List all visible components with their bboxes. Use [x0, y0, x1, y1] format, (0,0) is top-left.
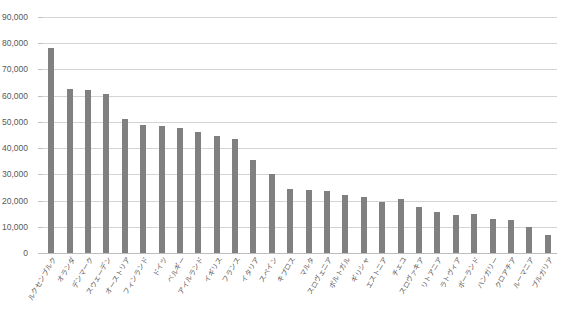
bar[interactable]	[159, 126, 165, 253]
bar[interactable]	[398, 199, 404, 253]
bar[interactable]	[195, 132, 201, 253]
bar-slot	[208, 17, 226, 253]
bar-slot	[373, 17, 391, 253]
bar[interactable]	[361, 197, 367, 253]
bar[interactable]	[122, 119, 128, 253]
bar-slot	[226, 17, 244, 253]
bar-slot	[244, 17, 262, 253]
bar-slot	[336, 17, 354, 253]
bar[interactable]	[471, 214, 477, 253]
bar-slot	[520, 17, 538, 253]
y-axis-tick-label: 20,000	[0, 197, 28, 206]
bar-slot	[97, 17, 115, 253]
bar[interactable]	[434, 212, 440, 253]
bar-slot	[410, 17, 428, 253]
bar-slot	[134, 17, 152, 253]
bar-slot	[116, 17, 134, 253]
bar[interactable]	[250, 160, 256, 253]
y-axis-tick-label: 0	[0, 249, 28, 258]
y-axis-tick-label: 70,000	[0, 65, 28, 74]
y-axis-tick-label: 90,000	[0, 13, 28, 22]
bar[interactable]	[490, 219, 496, 253]
bar[interactable]	[306, 190, 312, 253]
y-axis-tick-label: 80,000	[0, 39, 28, 48]
bar-slot	[355, 17, 373, 253]
x-axis-tick-label: フランス	[221, 256, 241, 284]
bar[interactable]	[232, 139, 238, 253]
x-axis-tick-label: キプロス	[276, 256, 296, 284]
bar-slot	[483, 17, 501, 253]
bar-slot	[189, 17, 207, 253]
x-axis-tick-label: ルクセンブルク	[27, 256, 58, 302]
bar[interactable]	[67, 89, 73, 253]
x-axis-tick-label: オランダ	[56, 256, 76, 284]
bar[interactable]	[416, 207, 422, 253]
bar[interactable]	[545, 235, 551, 253]
x-axis-tick-label: イギリス	[203, 256, 223, 284]
bar-slot	[42, 17, 60, 253]
bar-slot	[263, 17, 281, 253]
bar-slot	[391, 17, 409, 253]
bar-slot	[465, 17, 483, 253]
bar[interactable]	[103, 94, 109, 253]
y-axis-tick-label: 40,000	[0, 144, 28, 153]
bar-slot	[539, 17, 557, 253]
bar-chart: 010,00020,00030,00040,00050,00060,00070,…	[0, 0, 565, 323]
bar-slot	[152, 17, 170, 253]
bar[interactable]	[526, 227, 532, 253]
x-axis-tick-label: イタリア	[240, 256, 260, 284]
x-axis-labels: ルクセンブルクオランダデンマークスウェーデンオーストリアフィンランドドイツベルギ…	[42, 254, 557, 323]
y-axis-tick-label: 60,000	[0, 92, 28, 101]
bar[interactable]	[140, 125, 146, 253]
bar-slot	[299, 17, 317, 253]
x-axis-tick-label: ドイツ	[151, 256, 168, 278]
bar-slot	[318, 17, 336, 253]
bar-slot	[79, 17, 97, 253]
bar-slot	[447, 17, 465, 253]
bar-slot	[428, 17, 446, 253]
bar[interactable]	[379, 202, 385, 253]
x-axis-tick-label: マルタ	[298, 256, 315, 278]
bar[interactable]	[453, 215, 459, 253]
bar[interactable]	[342, 195, 348, 253]
bar-slot	[502, 17, 520, 253]
y-axis-tick-label: 10,000	[0, 223, 28, 232]
bar-slot	[171, 17, 189, 253]
bar[interactable]	[48, 48, 54, 253]
bar[interactable]	[324, 191, 330, 253]
bar[interactable]	[269, 174, 275, 253]
bar-slot	[60, 17, 78, 253]
y-axis-tick-label: 50,000	[0, 118, 28, 127]
bar-series	[42, 17, 557, 253]
bar[interactable]	[214, 136, 220, 253]
x-axis-tick-label: チェコ	[390, 256, 407, 278]
y-axis-tick-label: 30,000	[0, 170, 28, 179]
bar[interactable]	[508, 220, 514, 253]
plot-area: 010,00020,00030,00040,00050,00060,00070,…	[42, 17, 557, 253]
bar-slot	[281, 17, 299, 253]
bar[interactable]	[85, 90, 91, 253]
bar[interactable]	[177, 128, 183, 253]
bar[interactable]	[287, 189, 293, 253]
